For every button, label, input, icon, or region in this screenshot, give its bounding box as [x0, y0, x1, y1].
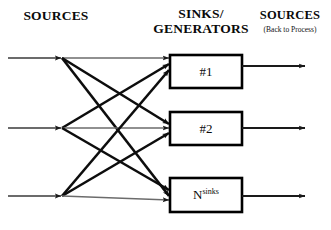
edge-s3-to-b3 — [62, 196, 169, 200]
box-label-3: Nsinks — [170, 187, 242, 203]
flow-graph — [0, 0, 331, 230]
edge-s2-to-b3 — [62, 128, 169, 190]
box-label-3-superscript: sinks — [202, 187, 218, 196]
box-label-2: #2 — [170, 121, 242, 137]
box-label-2-text: #2 — [200, 121, 213, 136]
edge-s2-to-b1 — [62, 64, 169, 128]
box-label-1-text: #1 — [200, 64, 213, 79]
box-label-1: #1 — [170, 64, 242, 80]
diagram-canvas: SOURCES SINKS/ GENERATORS SOURCES (Back … — [0, 0, 331, 230]
edge-s3-to-b2 — [62, 133, 169, 196]
edge-s1-to-b2 — [62, 58, 169, 124]
